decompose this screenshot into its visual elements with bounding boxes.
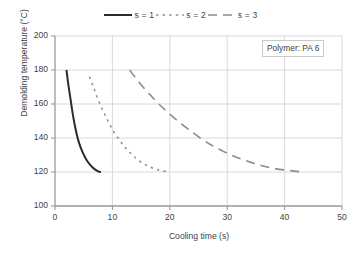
y-tick-label-100: 100 [22, 200, 48, 211]
y-axis-title: Demolding temperature (°C) [19, 0, 33, 143]
x-tick-label-20: 20 [155, 212, 185, 223]
annotation-polymer-label: Polymer: PA 6 [262, 40, 324, 57]
x-axis-title: Cooling time (s) [55, 231, 343, 241]
x-tick-label-30: 30 [212, 212, 242, 223]
plot-background [55, 36, 342, 206]
x-tick-label-10: 10 [97, 212, 127, 223]
x-tick-label-0: 0 [40, 212, 70, 223]
x-tick-label-50: 50 [327, 212, 357, 223]
y-tick-label-120: 120 [22, 166, 48, 177]
x-tick-label-40: 40 [270, 212, 300, 223]
chart-container: s = 1 s = 2 s = 3 [0, 0, 362, 253]
